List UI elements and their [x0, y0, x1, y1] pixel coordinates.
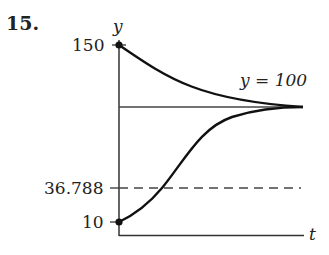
increasing-sigmoid-curve	[119, 107, 303, 222]
plot	[0, 0, 329, 255]
initial-point-150	[115, 41, 122, 48]
initial-point-10	[115, 218, 122, 225]
decreasing-curve	[119, 45, 303, 107]
